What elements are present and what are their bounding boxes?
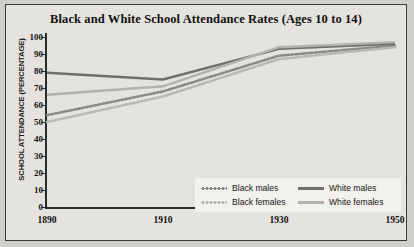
legend-item-black-males: Black males [201, 183, 298, 193]
y-tick-label: 30 [3, 151, 43, 161]
legend-item-white-males: White males [298, 183, 395, 193]
legend-swatch-black-females-icon [201, 201, 227, 204]
legend-item-white-females: White females [298, 197, 395, 207]
y-tick-label: 40 [3, 134, 43, 144]
legend-label-white-females: White females [329, 197, 383, 207]
y-tick-label: 80 [3, 66, 43, 76]
chart-title: Black and White School Attendance Rates … [6, 12, 406, 27]
legend-swatch-white-males-icon [298, 187, 324, 190]
chart-figure: Black and White School Attendance Rates … [5, 4, 407, 241]
legend-label-white-males: White males [329, 183, 376, 193]
y-tick-label: 50 [3, 117, 43, 127]
legend-row-males: Black males White males [201, 181, 395, 195]
x-tick-label: 1910 [154, 215, 173, 225]
x-tick-label: 1930 [270, 215, 289, 225]
y-tick-label: 60 [3, 100, 43, 110]
legend-label-black-males: Black males [232, 183, 278, 193]
y-tick-label: 10 [3, 185, 43, 195]
x-tick-label: 1890 [38, 215, 57, 225]
y-tick-label: 90 [3, 49, 43, 59]
legend-swatch-white-females-icon [298, 201, 324, 204]
legend-label-black-females: Black females [232, 197, 286, 207]
legend-row-females: Black females White females [201, 195, 395, 209]
legend-swatch-black-males-icon [201, 187, 227, 190]
series-line [47, 47, 395, 122]
y-tick-label: 100 [3, 32, 43, 42]
series-line [47, 46, 395, 116]
y-tick-label: 70 [3, 83, 43, 93]
y-tick-label: 0 [3, 202, 43, 212]
y-tick-label: 20 [3, 168, 43, 178]
chart-legend: Black males White males Black females Wh… [195, 178, 401, 212]
x-tick-label: 1950 [386, 215, 405, 225]
legend-item-black-females: Black females [201, 197, 298, 207]
